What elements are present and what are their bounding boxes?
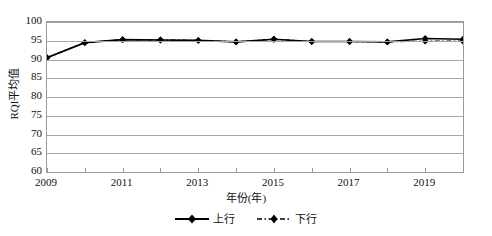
y-axis-tick-label: 80 (12, 90, 42, 101)
x-axis-tick (425, 168, 426, 172)
legend-label-shangxing: 上行 (213, 214, 235, 225)
x-axis-tick-label: 2015 (243, 177, 303, 188)
gridline (47, 97, 463, 98)
x-axis-tick (198, 168, 199, 172)
x-axis-tick-label: 2019 (394, 177, 454, 188)
gridline (47, 135, 463, 136)
data-point-marker (384, 38, 391, 45)
gridline (47, 78, 463, 79)
x-axis-tick (463, 168, 464, 172)
y-axis-tick-label: 95 (12, 34, 42, 45)
x-axis-tick (123, 168, 124, 172)
series-line-2 (47, 39, 463, 57)
x-axis-tick-label: 2009 (16, 177, 76, 188)
x-axis-tick (312, 168, 313, 172)
y-axis-tick-label: 100 (12, 15, 42, 26)
x-axis-title: 年份(年) (0, 193, 492, 204)
x-axis-tick (47, 168, 48, 172)
x-axis-tick (387, 168, 388, 172)
x-axis-tick-label: 2013 (167, 177, 227, 188)
y-axis-tick-label: 75 (12, 109, 42, 120)
y-axis-tick-label: 60 (12, 165, 42, 176)
x-axis-tick-label: 2017 (319, 177, 379, 188)
legend-marker-dashdot-icon (257, 213, 291, 225)
gridline (47, 153, 463, 154)
x-axis-tick (160, 168, 161, 172)
x-axis-tick-label: 2011 (92, 177, 152, 188)
x-axis-tick (85, 168, 86, 172)
y-axis-tick-label: 90 (12, 53, 42, 64)
y-axis-tick-label: 65 (12, 146, 42, 157)
x-axis-tick (274, 168, 275, 172)
legend-marker-solid-icon (175, 213, 209, 225)
y-axis-tick-label: 70 (12, 128, 42, 139)
gridline (47, 22, 463, 23)
legend-item-shangxing[interactable]: 上行 (175, 213, 235, 225)
x-axis-tick-labels: 200920112013201520172019 (46, 177, 464, 191)
data-point-marker (119, 36, 126, 43)
x-axis-tick (236, 168, 237, 172)
plot-area (46, 21, 464, 173)
x-axis-tick (350, 168, 351, 172)
y-axis-tick-labels: 6065707580859095100 (8, 21, 42, 173)
gridline (47, 60, 463, 61)
gridline (47, 41, 463, 42)
data-point-marker (233, 38, 240, 45)
legend-label-xiaxing: 下行 (295, 214, 317, 225)
chart-legend: 上行 下行 (0, 213, 492, 225)
legend-item-xiaxing[interactable]: 下行 (257, 213, 317, 225)
chart-container: RQI平均值 6065707580859095100 2009201120132… (0, 0, 492, 236)
y-axis-tick-label: 85 (12, 71, 42, 82)
gridline (47, 116, 463, 117)
